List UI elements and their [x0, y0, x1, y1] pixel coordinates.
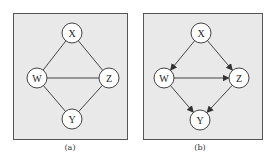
edge-b-x-w	[171, 41, 195, 70]
nodes-layer: XWZYXWZY	[27, 23, 249, 130]
graph-canvas: XWZYXWZY	[0, 0, 270, 156]
node-b-z: Z	[229, 68, 249, 88]
node-a-y: Y	[62, 109, 82, 129]
edge-b-w-y	[171, 86, 194, 112]
node-label: W	[32, 73, 42, 84]
node-a-x: X	[62, 23, 82, 43]
edge-b-z-y	[207, 85, 232, 112]
edge-b-x-z	[207, 41, 232, 70]
node-a-z: Z	[99, 68, 119, 88]
caption-a: (a)	[55, 143, 85, 152]
node-label: Y	[68, 114, 75, 125]
node-label: Z	[106, 73, 112, 84]
edges-layer	[43, 41, 232, 113]
node-label: Y	[196, 115, 203, 126]
node-b-x: X	[191, 23, 211, 43]
edge-a-x-w	[43, 41, 66, 70]
node-label: X	[68, 28, 76, 39]
node-label: X	[197, 28, 205, 39]
edge-a-x-z	[78, 41, 102, 71]
edge-a-z-y	[79, 85, 103, 111]
node-label: W	[159, 73, 169, 84]
node-a-w: W	[27, 68, 47, 88]
edge-a-w-y	[43, 86, 65, 112]
caption-b: (b)	[185, 143, 215, 152]
node-b-y: Y	[190, 110, 210, 130]
node-label: Z	[236, 73, 242, 84]
node-b-w: W	[154, 68, 174, 88]
